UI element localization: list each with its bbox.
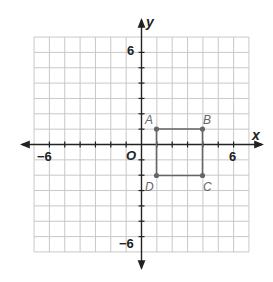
point-d-label: D [145,180,154,194]
rectangle-abcd [157,129,203,176]
x-axis-label: x [251,127,261,143]
y-axis-label: y [145,14,155,30]
point-b-label: B [203,113,211,127]
point-c [200,173,205,178]
coordinate-plane: x y O −6 6 6 −6 A B C D [0,0,273,282]
y-tick-label-6: 6 [127,43,134,58]
point-a-label: A [144,113,153,127]
point-b [200,126,205,131]
point-a [154,126,159,131]
x-tick-label-neg6: −6 [37,149,52,164]
y-tick-label-neg6: −6 [119,236,134,251]
point-c-label: C [203,180,212,194]
x-tick-label-6: 6 [229,149,236,164]
origin-label: O [126,148,136,163]
point-d [154,173,159,178]
